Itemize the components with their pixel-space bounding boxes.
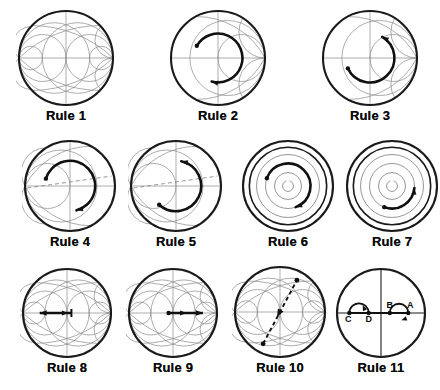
panel-rule-7: Rule 7	[344, 138, 440, 248]
panel-rule-1: Rule 1	[16, 8, 116, 122]
rule-6-diagram	[240, 138, 336, 234]
rule-6-grid	[249, 147, 326, 224]
panel-rule-2: Rule 2	[168, 8, 268, 122]
rule-2-diagram	[168, 8, 268, 108]
rule-9-diagram	[126, 266, 220, 360]
panel-rule-9: Rule 9	[126, 266, 220, 374]
rule-10-diagram	[232, 264, 328, 360]
panel-rule-10: Rule 10	[232, 264, 328, 374]
rule-6-label: Rule 6	[268, 235, 308, 248]
rule-4-diagram	[22, 138, 118, 234]
rule-1-diagram	[16, 8, 116, 108]
rule-10-label: Rule 10	[256, 361, 304, 374]
rule-11-label: Rule 11	[358, 361, 405, 374]
rule-3-diagram	[320, 8, 420, 108]
panel-rule-8: Rule 8	[20, 266, 114, 374]
rule-1-label: Rule 1	[46, 109, 86, 122]
panel-rule-3: Rule 3	[320, 8, 420, 122]
rule-9-label: Rule 9	[153, 361, 193, 374]
rule-5-label: Rule 5	[156, 235, 196, 248]
rule-4-label: Rule 4	[50, 235, 90, 248]
rule-11-annotation: ABCD	[345, 300, 414, 324]
rule-7-grid	[353, 147, 430, 224]
panel-rule-6: Rule 6	[240, 138, 336, 248]
smith-chart-rules-figure: Rule 1Rule 2Rule 3Rule 4Rule 5Rule 6Rule…	[0, 0, 440, 390]
rule-2-label: Rule 2	[198, 109, 238, 122]
rule-7-diagram	[344, 138, 440, 234]
rule-11-diagram: ABCD	[334, 266, 428, 360]
rule-2-annotation	[195, 34, 243, 86]
rule-5-diagram	[128, 138, 224, 234]
rule-11-point-label-a: A	[407, 300, 414, 310]
rule-11-point-label-b: B	[387, 300, 394, 310]
panel-rule-5: Rule 5	[128, 138, 224, 248]
rule-8-label: Rule 8	[47, 361, 87, 374]
rule-11-point-label-d: D	[365, 314, 372, 324]
panel-rule-11: ABCDRule 11	[334, 266, 428, 374]
rule-8-diagram	[20, 266, 114, 360]
rule-7-label: Rule 7	[372, 235, 412, 248]
rule-9-annotation	[166, 310, 203, 316]
rule-11-point-label-c: C	[345, 314, 352, 324]
panel-rule-4: Rule 4	[22, 138, 118, 248]
rule-3-label: Rule 3	[350, 109, 390, 122]
